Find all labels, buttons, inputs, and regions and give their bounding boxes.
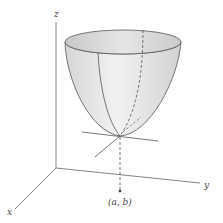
point-ab-label: (a, b) [108, 197, 132, 207]
tangent-line-x [95, 136, 120, 157]
y-axis-label: y [203, 180, 210, 190]
projection: (a, b) [108, 137, 132, 207]
y-axis [56, 168, 200, 183]
paraboloid-diagram: z x y (a, b) [0, 0, 223, 223]
x-axis-label: x [7, 207, 12, 217]
bowl-rim-inner [65, 30, 181, 54]
bowl-body [65, 42, 181, 136]
point-ab [119, 190, 122, 193]
paraboloid-surface [65, 30, 181, 136]
x-axis [15, 168, 56, 209]
z-axis-label: z [53, 9, 59, 19]
